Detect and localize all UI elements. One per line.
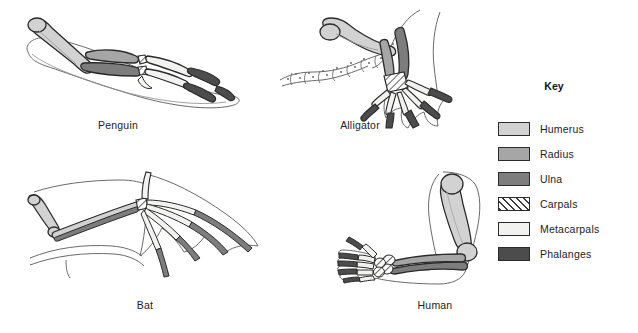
key-swatch-carpals bbox=[498, 197, 530, 211]
key-label-ulna: Ulna bbox=[540, 173, 562, 185]
bat-leg-outline bbox=[66, 260, 70, 278]
key-swatch-phalanges bbox=[498, 247, 530, 261]
human-humerus-head bbox=[441, 174, 463, 194]
key-swatch-metacarpals bbox=[498, 222, 530, 236]
alligator-belly-line bbox=[280, 52, 390, 80]
key-label-metacarpals: Metacarpals bbox=[540, 223, 599, 235]
figure-label-bat: Bat bbox=[85, 299, 205, 311]
key-label-phalanges: Phalanges bbox=[540, 248, 591, 260]
bat-ulna bbox=[54, 207, 139, 241]
key-row-radius: Radius bbox=[498, 143, 636, 164]
key-legend: Key Humerus Radius Ulna Carpals Metacarp… bbox=[498, 80, 636, 268]
key-label-humerus: Humerus bbox=[540, 123, 584, 135]
alligator-humerus-head bbox=[320, 24, 340, 40]
figure-label-alligator: Alligator bbox=[300, 119, 420, 131]
key-title: Key bbox=[504, 80, 604, 92]
figure-label-penguin: Penguin bbox=[58, 119, 178, 131]
figure-human bbox=[335, 172, 510, 297]
key-label-radius: Radius bbox=[540, 148, 574, 160]
bat-back-outline bbox=[34, 180, 150, 192]
key-row-carpals: Carpals bbox=[498, 193, 636, 214]
key-row-metacarpals: Metacarpals bbox=[498, 218, 636, 239]
key-row-phalanges: Phalanges bbox=[498, 243, 636, 264]
key-swatch-radius bbox=[498, 147, 530, 161]
key-row-ulna: Ulna bbox=[498, 168, 636, 189]
bat-humerus-head bbox=[28, 195, 40, 205]
key-label-carpals: Carpals bbox=[540, 198, 578, 210]
key-swatch-humerus bbox=[498, 122, 530, 136]
figure-penguin bbox=[18, 14, 248, 114]
bat-belly-outline-2 bbox=[30, 253, 144, 266]
figure-alligator bbox=[280, 8, 480, 128]
penguin-phalanx-1 bbox=[187, 68, 219, 85]
figure-bat bbox=[20, 170, 260, 295]
figure-label-human: Human bbox=[375, 299, 495, 311]
penguin-humerus-head bbox=[28, 18, 46, 32]
key-row-humerus: Humerus bbox=[498, 118, 636, 139]
alligator-belly-line-2 bbox=[282, 66, 368, 86]
key-swatch-ulna bbox=[498, 172, 530, 186]
